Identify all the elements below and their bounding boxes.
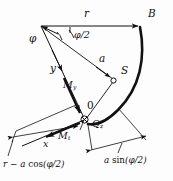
right-dim-argument: (φ/2) (125, 155, 147, 165)
left-dim-prefix: r − a (3, 159, 28, 169)
force-qz-subscript: z (100, 123, 103, 129)
figure-svg (0, 0, 173, 181)
moment-mt-label: Mt (58, 131, 70, 142)
left-dim-function: cos (28, 159, 43, 169)
axis-x-label: x (43, 139, 48, 149)
moment-my-label: My (63, 80, 76, 91)
moment-mt-subscript: t (68, 135, 71, 141)
force-qz-label: Qz (92, 119, 103, 130)
right-dim-leader (118, 143, 122, 153)
moment-mt-base: M (58, 130, 68, 141)
radius-r-label: r (84, 8, 89, 19)
left-dim-leader (8, 140, 13, 156)
centroid-marker (111, 78, 116, 83)
diagram-canvas: φ φ/2 r B a S y x 0 My Mt Qz r − a cos(φ… (0, 0, 173, 181)
moment-my-base: M (63, 79, 73, 90)
moment-my-subscript: y (73, 84, 77, 90)
right-dim-ext-a (118, 108, 146, 140)
right-dim-arrow (91, 136, 146, 150)
left-dimension-label: r − a cos(φ/2) (3, 160, 65, 169)
axis-y-label: y (50, 63, 56, 74)
right-dim-prefix: a (104, 155, 112, 165)
right-dimension-label: a sin(φ/2) (104, 156, 147, 165)
vector-a-arrow (96, 67, 110, 77)
angle-phi-half-label: φ/2 (74, 30, 90, 40)
right-dim-function: sin (112, 155, 125, 165)
point-b-label: B (148, 8, 156, 19)
angle-phi-label: φ (29, 33, 36, 44)
beam-arc (88, 27, 142, 124)
origin-label: 0 (87, 100, 94, 111)
force-qz-base: Q (92, 118, 100, 129)
distance-a-label: a (99, 53, 105, 64)
left-dim-argument: (φ/2) (43, 159, 65, 169)
centroid-s-label: S (121, 65, 128, 76)
